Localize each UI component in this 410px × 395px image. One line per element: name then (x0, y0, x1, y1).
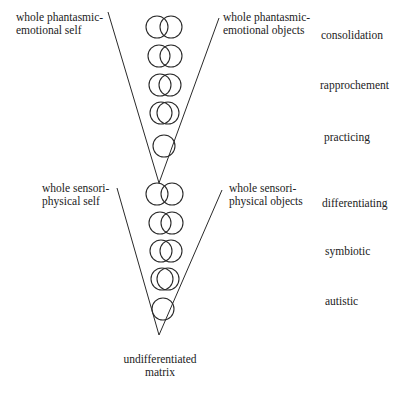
lower-left-label: whole sensori- physical self (42, 182, 109, 208)
upper-circle-row3-object (159, 74, 181, 96)
stage-consolidation: consolidation (321, 29, 383, 42)
lower-circle-row3-self (150, 240, 172, 262)
label-line: whole sensori- (42, 182, 109, 195)
upper-circle-row3-self (149, 74, 171, 96)
lower-cone-right-edge (159, 190, 222, 335)
stage-differentiating: differentiating (322, 197, 388, 210)
upper-left-label: whole phantasmic- emotional self (16, 11, 103, 37)
upper-circle-row4-object (157, 102, 179, 124)
stage-autistic: autistic (325, 295, 358, 308)
label-line: undifferentiated (108, 353, 212, 366)
label-line: emotional self (16, 24, 103, 37)
upper-right-label: whole phantasmic- emotional objects (223, 11, 310, 37)
lower-circle-row1-object (161, 183, 183, 205)
lower-circle-row4-object (157, 268, 179, 290)
label-line: physical self (42, 195, 109, 208)
upper-circle-row5-fused (153, 135, 175, 157)
label-line: whole phantasmic- (16, 11, 103, 24)
stage-rapprochement: rapprochement (320, 79, 389, 92)
upper-cone-right-edge (159, 18, 219, 183)
lower-circle-row3-object (160, 240, 182, 262)
label-line: whole phantasmic- (223, 11, 310, 24)
lower-circle-row2-self (149, 212, 171, 234)
lower-circle-row4-self (151, 268, 173, 290)
stage-practicing: practicing (324, 131, 370, 144)
upper-circle-row2-object (160, 45, 182, 67)
label-line: emotional objects (223, 24, 310, 37)
label-line: matrix (108, 366, 212, 379)
lower-circle-row2-object (161, 212, 183, 234)
upper-cone-left-edge (108, 12, 159, 183)
stage-symbiotic: symbiotic (325, 245, 370, 258)
upper-circle-row1-object (160, 16, 182, 38)
upper-circle-row4-self (150, 102, 172, 124)
lower-right-label: whole sensori- physical objects (229, 182, 303, 208)
label-line: whole sensori- (229, 182, 303, 195)
upper-circle-row1-self (146, 16, 168, 38)
bottom-label: undifferentiated matrix (108, 353, 212, 379)
lower-circle-pairs (146, 183, 183, 320)
label-line: physical objects (229, 195, 303, 208)
upper-circle-row2-self (148, 45, 170, 67)
